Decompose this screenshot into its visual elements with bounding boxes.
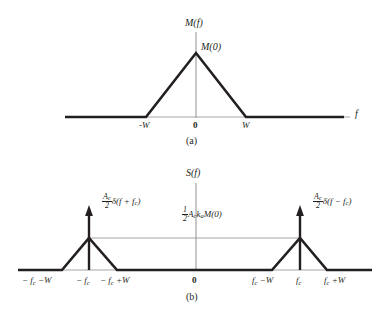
figure-canvas bbox=[0, 0, 390, 315]
panel-b-level-label: 1 2 AckaM(0) bbox=[182, 206, 222, 224]
panel-b-tick-label-fc-minus-w: fc −W bbox=[252, 276, 273, 285]
level-amplitude-sub: c bbox=[194, 212, 197, 219]
level-amplitude-symbol: A bbox=[188, 209, 194, 219]
panel-b-tick-label-neg-fc: − fc bbox=[76, 276, 90, 285]
figure-root: M(f) M(0) f -W 0 W (a) S(f) Ac 2 δ(f + f… bbox=[0, 0, 390, 315]
panel-a-peak-label: M(0) bbox=[201, 42, 221, 52]
panel-b-vertical-axis-label: S(f) bbox=[186, 168, 200, 178]
right-impulse-fraction: Ac 2 bbox=[313, 193, 323, 211]
left-impulse-fraction: Ac 2 bbox=[102, 193, 112, 211]
panel-b-left-impulse-label: Ac 2 δ(f + fc) bbox=[102, 193, 140, 211]
panel-b-right-impulse bbox=[296, 205, 304, 270]
panel-a-vertical-axis-label: M(f) bbox=[185, 18, 203, 28]
panel-a-horizontal-axis-label: f bbox=[355, 109, 358, 119]
level-sensitivity-sub: a bbox=[200, 212, 203, 219]
panel-b-right-impulse-label: Ac 2 δ(f − fc) bbox=[313, 193, 351, 211]
panel-b-right-sideband-trace bbox=[196, 238, 372, 270]
panel-b-left-sideband-trace bbox=[18, 238, 196, 270]
panel-a-caption: (a) bbox=[186, 136, 197, 146]
left-impulse-denominator: 2 bbox=[102, 201, 112, 210]
panel-a-tick-label-zero: 0 bbox=[193, 121, 198, 130]
level-fraction: 1 2 bbox=[182, 206, 188, 224]
level-message-term: M(0) bbox=[204, 209, 222, 219]
panel-a-spectrum-trace bbox=[65, 53, 344, 117]
right-impulse-delta-text: δ(f − f bbox=[323, 196, 346, 206]
left-impulse-numerator: Ac bbox=[102, 193, 112, 201]
panel-b-tick-label-fc-plus-w: fc +W bbox=[324, 276, 345, 285]
right-impulse-denominator: 2 bbox=[313, 201, 323, 210]
level-numerator: 1 bbox=[182, 206, 188, 214]
panel-b-tick-label-neg-fc-minus-w: − fc −W bbox=[22, 276, 52, 285]
panel-a-tick-label-neg-w: -W bbox=[139, 121, 150, 130]
left-impulse-delta-text: δ(f + f bbox=[112, 196, 135, 206]
right-impulse-numerator: Ac bbox=[313, 193, 323, 201]
panel-b-tick-label-fc: fc bbox=[296, 276, 301, 285]
panel-a-tick-label-pos-w: W bbox=[242, 121, 250, 130]
panel-b-tick-label-zero: 0 bbox=[192, 276, 197, 285]
left-impulse-delta-close: ) bbox=[137, 196, 140, 206]
panel-b-caption: (b) bbox=[186, 292, 198, 302]
level-denominator: 2 bbox=[182, 214, 188, 223]
right-impulse-delta-close: ) bbox=[348, 196, 351, 206]
panel-b-tick-label-neg-fc-plus-w: − fc +W bbox=[100, 276, 130, 285]
panel-b-left-impulse bbox=[85, 205, 93, 270]
